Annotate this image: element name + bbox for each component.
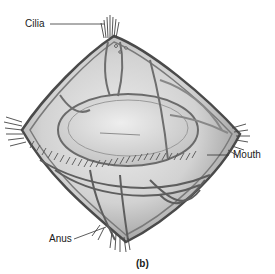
figure-caption: (b) xyxy=(136,259,149,269)
ctenophore-illustration xyxy=(0,0,275,274)
ctenophore-figure: Cilia Mouth Anus (b) xyxy=(0,0,275,274)
anus-label: Anus xyxy=(49,234,72,244)
mouth-label: Mouth xyxy=(233,150,261,160)
cilia-label: Cilia xyxy=(25,19,44,29)
